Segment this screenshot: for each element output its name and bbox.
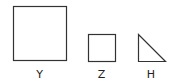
triangle-h <box>139 35 166 62</box>
square-z <box>89 35 116 62</box>
label-y: Y <box>35 68 43 81</box>
shapes-diagram: Y Z H <box>0 0 175 82</box>
square-y <box>14 7 67 61</box>
label-z: Z <box>98 68 106 81</box>
label-h: H <box>147 68 155 81</box>
